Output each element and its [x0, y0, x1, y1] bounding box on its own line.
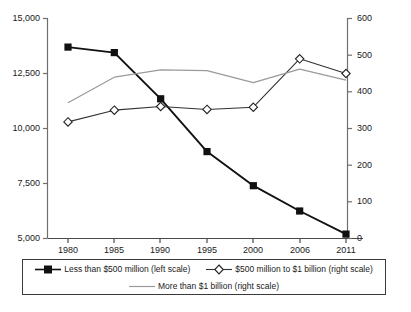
- data-point-marker: [110, 106, 118, 114]
- open-diamond-line-icon: [206, 264, 232, 275]
- chart-svg: [0, 0, 411, 258]
- series-2: [64, 55, 350, 126]
- right-axis-tick-label: 600: [357, 13, 387, 23]
- data-point-marker: [203, 105, 211, 113]
- data-point-marker: [342, 231, 349, 238]
- legend-label: More than $1 billion (right scale): [158, 282, 279, 291]
- plain-gray-line-icon: [129, 281, 155, 292]
- filled-square-line-icon: [35, 264, 61, 275]
- right-axis-tick-label: 300: [357, 123, 387, 133]
- left-axis-tick-label: 15,000: [2, 13, 40, 23]
- chart-plot-area: 15,000 12,500 10,000 7,500 5,000 600 500…: [0, 0, 411, 258]
- chart-figure: 15,000 12,500 10,000 7,500 5,000 600 500…: [0, 0, 411, 312]
- data-point-marker: [111, 49, 118, 56]
- left-axis-tick-label: 7,500: [2, 178, 40, 188]
- x-axis-ticks: [68, 239, 346, 244]
- data-point-marker: [64, 118, 72, 126]
- data-point-marker: [203, 148, 210, 155]
- data-point-marker: [296, 207, 303, 214]
- series-line: [68, 47, 346, 234]
- data-point-marker: [250, 182, 257, 189]
- chart-legend: Less than $500 million (left scale) $500…: [22, 259, 386, 295]
- caption-strip: [0, 296, 411, 312]
- legend-row-bottom: More than $1 billion (right scale): [23, 278, 385, 295]
- x-axis-tick-label: 1990: [140, 245, 180, 255]
- data-point-marker: [64, 44, 71, 51]
- x-axis-tick-label: 1980: [48, 245, 88, 255]
- x-axis-tick-label: 2000: [233, 245, 273, 255]
- right-axis-tick-label: 400: [357, 86, 387, 96]
- right-axis-tick-label: 0: [357, 233, 387, 243]
- data-point-marker: [342, 69, 350, 77]
- left-axis-tick-label: 10,000: [2, 123, 40, 133]
- chart-series-group: [64, 44, 350, 238]
- data-point-marker: [157, 95, 164, 102]
- left-axis-ticks: [43, 19, 48, 239]
- x-axis-tick-label: 1995: [187, 245, 227, 255]
- legend-label: Less than $500 million (left scale): [64, 265, 190, 274]
- right-axis-ticks: [348, 19, 353, 239]
- x-axis-tick-label: 2006: [280, 245, 320, 255]
- right-axis-tick-label: 500: [357, 50, 387, 60]
- legend-label: $500 million to $1 billion (right scale): [235, 265, 373, 274]
- series-line: [68, 69, 346, 103]
- series-1: [64, 44, 349, 238]
- legend-entry-more-than-1b[interactable]: More than $1 billion (right scale): [129, 281, 279, 292]
- right-axis-tick-label: 200: [357, 160, 387, 170]
- legend-entry-500m-to-1b[interactable]: $500 million to $1 billion (right scale): [206, 264, 373, 275]
- left-axis-tick-label: 12,500: [2, 68, 40, 78]
- left-axis-tick-label: 5,000: [2, 233, 40, 243]
- series-3: [68, 69, 346, 103]
- right-axis-tick-label: 100: [357, 196, 387, 206]
- x-axis-tick-label: 1985: [94, 245, 134, 255]
- legend-entry-less-than-500m[interactable]: Less than $500 million (left scale): [35, 264, 190, 275]
- x-axis-tick-label: 2011: [326, 245, 366, 255]
- legend-row-top: Less than $500 million (left scale) $500…: [23, 261, 385, 278]
